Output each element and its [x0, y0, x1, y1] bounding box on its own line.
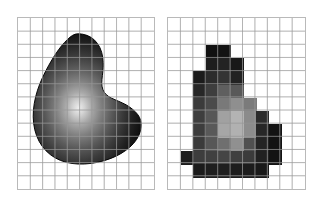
pixel-cell [193, 85, 206, 99]
pixel-cell [244, 98, 257, 112]
pixel-cell [206, 151, 219, 165]
pixel-cell [231, 58, 244, 72]
pixel-cell [206, 45, 219, 59]
pixel-cell [193, 124, 206, 138]
panel-pixelated-shape [167, 17, 306, 190]
pixel-cell [218, 151, 231, 165]
pixel-cell [231, 85, 244, 99]
pixel-cell [269, 138, 282, 152]
pixel-cell [231, 164, 244, 178]
pixel-cell [218, 85, 231, 99]
panel-continuous-shape [17, 17, 155, 190]
pixel-cell [256, 111, 269, 125]
pixel-cell [218, 58, 231, 72]
pixel-cell [193, 151, 206, 165]
pixel-cell [181, 151, 194, 165]
pixel-cell [269, 124, 282, 138]
pixel-cell [244, 151, 257, 165]
pixel-cell [206, 138, 219, 152]
pixel-cell [244, 124, 257, 138]
pixel-cell [206, 58, 219, 72]
pixel-cell [206, 71, 219, 85]
pixel-cell [256, 151, 269, 165]
pixel-cell [218, 138, 231, 152]
pixel-cell [218, 98, 231, 112]
pixel-cell [231, 138, 244, 152]
pixel-cell [269, 151, 282, 165]
pixel-cell [256, 124, 269, 138]
pixel-cell [206, 98, 219, 112]
pixel-cell [256, 164, 269, 178]
pixel-cell [218, 124, 231, 138]
continuous-blob-shape [18, 18, 154, 189]
pixel-cell [206, 85, 219, 99]
pixel-cell [231, 151, 244, 165]
pixel-cell [218, 164, 231, 178]
pixel-cell [193, 98, 206, 112]
pixel-cell [193, 71, 206, 85]
pixel-cell [231, 98, 244, 112]
pixel-cell [231, 71, 244, 85]
pixel-cell [193, 138, 206, 152]
pixel-cell [193, 111, 206, 125]
pixel-cell [218, 45, 231, 59]
pixel-cell [244, 138, 257, 152]
pixel-cell [244, 111, 257, 125]
pixel-cell [231, 124, 244, 138]
pixel-cell [244, 164, 257, 178]
pixel-cell [256, 138, 269, 152]
pixel-cell [218, 111, 231, 125]
pixel-cell [206, 164, 219, 178]
pixel-cell [218, 71, 231, 85]
pixel-cell [193, 164, 206, 178]
pixel-cell [206, 111, 219, 125]
pixel-cell [206, 124, 219, 138]
figure-root [0, 0, 328, 207]
pixel-cell [231, 111, 244, 125]
pixel-mosaic-layer [168, 18, 305, 189]
